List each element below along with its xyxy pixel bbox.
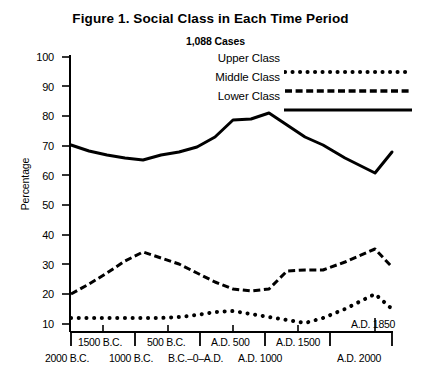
series-lower-class [71, 113, 392, 173]
series-upper-class [71, 294, 392, 323]
x-label-ad1850: A.D. 1850 [351, 318, 395, 330]
x-label-1500bc: 1500 B.C. [78, 336, 122, 348]
x-label-ad2000: A.D. 2000 [337, 352, 381, 364]
x-label-ad1000: A.D. 1000 [238, 352, 282, 364]
x-label-ad1500: A.D. 1500 [276, 336, 320, 348]
x-label-2000bc: 2000 B.C. [45, 352, 89, 364]
figure-container: Figure 1. Social Class in Each Time Peri… [0, 0, 421, 377]
x-label-ad500: A.D. 500 [211, 336, 249, 348]
x-label-bc0ad: B.C.–0–A.D. [168, 352, 223, 364]
series-middle-class [71, 249, 392, 294]
x-label-1000bc: 1000 B.C. [109, 352, 153, 364]
x-label-500bc: 500 B.C. [147, 336, 185, 348]
